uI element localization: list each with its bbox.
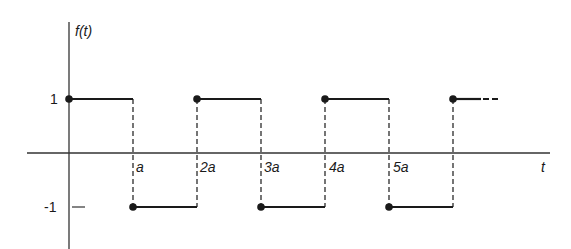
closed-dot <box>129 203 137 211</box>
closed-dot <box>193 95 201 103</box>
plot-area: f(t) t 1 -1 a 2a 3a 4a 5a <box>0 0 571 249</box>
square-wave-diagram: f(t) t 1 -1 a 2a 3a 4a 5a <box>0 0 571 249</box>
closed-dot <box>65 95 73 103</box>
x-axis-label: t <box>541 159 546 175</box>
closed-dot <box>449 95 457 103</box>
x-tick-label-4a: 4a <box>329 159 345 175</box>
y-tick-label-minus-1: -1 <box>44 199 57 215</box>
y-axis-label: f(t) <box>75 23 92 39</box>
x-tick-label-a: a <box>136 159 144 175</box>
x-tick-label-3a: 3a <box>264 159 280 175</box>
closed-dot <box>385 203 393 211</box>
closed-dot <box>321 95 329 103</box>
y-tick-label-1: 1 <box>50 91 58 107</box>
closed-dot <box>257 203 265 211</box>
x-tick-label-5a: 5a <box>393 159 409 175</box>
x-tick-label-2a: 2a <box>199 159 216 175</box>
